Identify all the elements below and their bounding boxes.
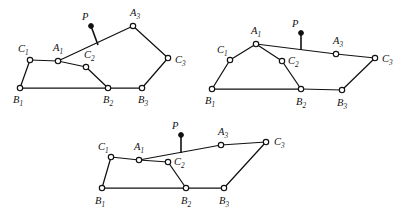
label-a1: A1: [52, 42, 63, 56]
vertex-c3[interactable]: [372, 55, 377, 60]
vertex-c2[interactable]: [279, 58, 284, 63]
edge-b1-c1: [20, 60, 30, 88]
edge-c1-a1: [111, 157, 139, 160]
figure-3: C1A1C2A3C3B1B2B3P: [95, 120, 285, 209]
label-b3: B3: [219, 195, 229, 209]
vertex-c3[interactable]: [263, 139, 268, 144]
edge-b3-c3: [142, 58, 168, 88]
vertex-c1[interactable]: [27, 57, 32, 62]
vertex-c1[interactable]: [227, 57, 232, 62]
label-b2: B2: [296, 96, 306, 110]
figures-layer: C1A1C2A3C3B1B2B3PC1A1C2A3C3B1B2B3PC1A1C2…: [13, 7, 393, 209]
edge-b1-c1: [102, 157, 111, 188]
label-a3: A3: [129, 7, 140, 21]
vertex-a1[interactable]: [253, 41, 258, 46]
vertex-a3[interactable]: [218, 142, 223, 147]
edge-a1-c2: [139, 160, 168, 162]
edge-c3-a3: [221, 142, 266, 145]
label-c1: C1: [18, 43, 29, 57]
label-b1: B1: [13, 94, 23, 108]
label-c3: C3: [274, 136, 285, 150]
vertex-c2[interactable]: [83, 64, 88, 69]
label-p: P: [291, 18, 299, 29]
vertex-b2[interactable]: [183, 185, 188, 190]
label-b1: B1: [95, 195, 105, 209]
label-c3: C3: [175, 54, 186, 68]
edge-c1-a1: [30, 60, 58, 61]
edge-b2-b3: [301, 89, 342, 90]
label-a1: A1: [250, 25, 261, 39]
label-c3: C3: [382, 53, 393, 67]
vertex-b3[interactable]: [221, 185, 226, 190]
vertex-a3[interactable]: [130, 23, 135, 28]
label-a3: A3: [217, 126, 228, 140]
figure-1: C1A1C2A3C3B1B2B3P: [13, 7, 186, 108]
point-p[interactable]: [89, 24, 94, 29]
diagram-canvas: C1A1C2A3C3B1B2B3PC1A1C2A3C3B1B2B3PC1A1C2…: [0, 0, 409, 216]
vertex-a1[interactable]: [55, 58, 60, 63]
point-p[interactable]: [299, 31, 304, 36]
label-c2: C2: [174, 156, 185, 170]
edge-b3-c3: [224, 142, 266, 188]
label-c2: C2: [84, 49, 95, 63]
label-c1: C1: [98, 141, 109, 155]
edge-c3-a3: [133, 26, 168, 58]
edge-b1-c1: [212, 60, 230, 89]
label-b3: B3: [337, 97, 347, 111]
vertex-a1[interactable]: [136, 157, 141, 162]
vertex-c3[interactable]: [165, 55, 170, 60]
label-p: P: [81, 11, 89, 22]
edge-a3-a1: [58, 26, 133, 61]
vertex-a3[interactable]: [333, 51, 338, 56]
edge-b3-c3: [342, 58, 375, 90]
label-p: P: [171, 120, 179, 131]
p-stem: [91, 26, 98, 45]
label-c1: C1: [217, 44, 228, 58]
label-a1: A1: [133, 141, 144, 155]
vertex-b1[interactable]: [99, 185, 104, 190]
label-b2: B2: [103, 94, 113, 108]
label-b2: B2: [181, 195, 191, 209]
vertex-b2[interactable]: [105, 85, 110, 90]
vertex-b1[interactable]: [209, 86, 214, 91]
point-p[interactable]: [179, 133, 184, 138]
label-c2: C2: [288, 55, 299, 69]
vertex-b2[interactable]: [298, 86, 303, 91]
edge-a1-c2: [58, 61, 86, 67]
vertex-b1[interactable]: [17, 85, 22, 90]
figure-2: C1A1C2A3C3B1B2B3P: [205, 18, 393, 111]
polygon-linkage-diagram: C1A1C2A3C3B1B2B3PC1A1C2A3C3B1B2B3PC1A1C2…: [0, 0, 409, 216]
vertex-c1[interactable]: [108, 154, 113, 159]
edge-c2-b2: [86, 67, 108, 88]
label-b1: B1: [205, 95, 215, 109]
vertex-b3[interactable]: [339, 87, 344, 92]
vertex-c2[interactable]: [165, 159, 170, 164]
label-b3: B3: [138, 94, 148, 108]
edge-c1-a1: [230, 44, 256, 60]
edge-c3-a3: [336, 54, 375, 58]
label-a3: A3: [332, 35, 343, 49]
vertex-b3[interactable]: [139, 85, 144, 90]
